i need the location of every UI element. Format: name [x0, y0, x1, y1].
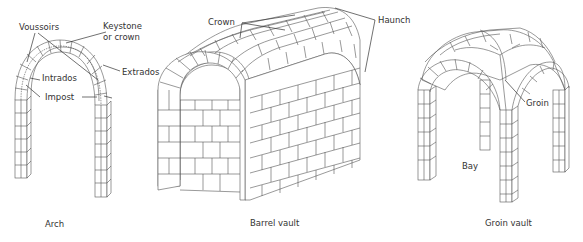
arch-drawing: Voussoirs Keystone or crown Intrados Ext…	[15, 21, 160, 229]
architecture-diagram: Voussoirs Keystone or crown Intrados Ext…	[0, 0, 583, 242]
label-haunch: Haunch	[378, 15, 410, 25]
label-keystone: Keystone	[103, 21, 142, 31]
label-or-crown: or crown	[103, 32, 140, 42]
label-crown: Crown	[208, 17, 235, 27]
label-bay: Bay	[462, 161, 478, 171]
label-impost: Impost	[45, 92, 75, 102]
caption-arch: Arch	[45, 219, 64, 229]
label-voussoirs: Voussoirs	[19, 22, 60, 32]
label-intrados: Intrados	[42, 73, 78, 83]
caption-barrel-vault: Barrel vault	[250, 218, 300, 228]
barrel-vault-drawing: Crown Haunch Barrel vault	[158, 7, 410, 228]
label-extrados: Extrados	[122, 67, 160, 77]
label-groin: Groin	[526, 98, 549, 108]
caption-groin-vault: Groin vault	[485, 218, 533, 228]
groin-vault-drawing: Groin Bay Groin vault	[418, 28, 569, 228]
